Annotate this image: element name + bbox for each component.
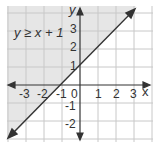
y-tick-label: -2 [65, 117, 76, 131]
inequality-label: y ≥ x + 1 [13, 25, 63, 40]
x-axis-label: x [142, 84, 149, 99]
x-tick-label: 1 [95, 87, 102, 101]
y-tick-label: 3 [70, 22, 77, 36]
y-tick-label: 1 [70, 59, 77, 73]
x-tick-label: 2 [113, 87, 120, 101]
y-tick-label: -1 [65, 99, 76, 113]
x-tick-label: -3 [19, 87, 30, 101]
inequality-graph: y ≥ x + 1 y x -3 -2 -1 0 1 2 3 3 2 1 -1 … [0, 0, 156, 147]
x-tick-label: -2 [37, 87, 48, 101]
x-tick-label: 3 [130, 87, 137, 101]
y-tick-label: 2 [70, 40, 77, 54]
